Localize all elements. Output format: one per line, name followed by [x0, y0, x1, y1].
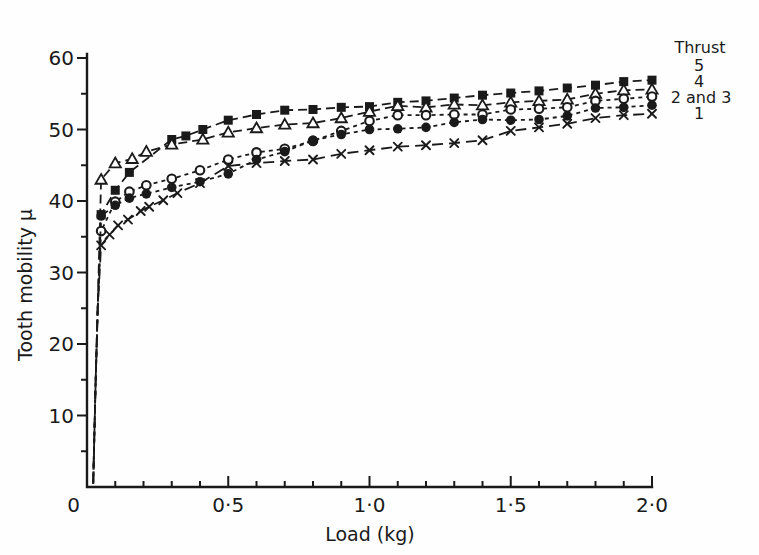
filled-circle-marker	[110, 200, 120, 210]
open-circle-marker	[142, 181, 151, 190]
cross-marker	[159, 196, 167, 204]
filled-square-marker	[111, 186, 120, 195]
y-tick-label: 20	[49, 332, 74, 356]
series-line	[93, 114, 652, 484]
x-tick-label: 1·0	[354, 493, 386, 517]
open-circle-marker	[365, 117, 374, 126]
cross-marker	[124, 216, 132, 224]
cross-marker	[137, 207, 145, 215]
data-series	[93, 76, 657, 484]
filled-circle-marker	[647, 100, 657, 110]
scanned-figure-page: Load (kg) Tooth mobility μ Thrust 5 4 2 …	[0, 0, 759, 555]
filled-square-marker	[125, 168, 134, 177]
open-triangle-marker	[251, 122, 262, 132]
series-line	[93, 80, 652, 483]
origin-tick-label: 0	[67, 493, 80, 517]
filled-circle-marker	[478, 115, 488, 125]
y-tick-label: 60	[49, 46, 74, 70]
legend: Thrust 5 4 2 and 3 1	[671, 38, 732, 123]
filled-square-marker	[563, 84, 572, 93]
series-2-and-3	[93, 92, 656, 483]
filled-circle-marker	[591, 103, 601, 113]
open-circle-marker	[167, 175, 176, 184]
filled-circle-marker	[506, 115, 516, 125]
x-tick-label: 2·0	[636, 493, 668, 517]
open-circle-marker	[648, 92, 657, 101]
legend-title: Thrust	[673, 38, 725, 57]
filled-circle-marker	[142, 189, 152, 199]
filled-square-marker	[280, 106, 289, 115]
filled-circle-marker	[125, 193, 135, 203]
filled-square-marker	[337, 103, 346, 112]
open-circle-marker	[535, 104, 544, 113]
open-triangle-marker	[141, 146, 152, 156]
cross-marker	[173, 189, 181, 197]
tooth-mobility-chart: Load (kg) Tooth mobility μ Thrust 5 4 2 …	[0, 0, 759, 555]
filled-square-marker	[252, 110, 261, 119]
x-axis-title: Load (kg)	[325, 523, 415, 545]
cross-marker	[114, 221, 122, 229]
cross-marker	[648, 110, 656, 118]
filled-circle-marker	[393, 124, 403, 134]
series-4	[93, 84, 657, 484]
y-tick-label: 30	[49, 261, 74, 285]
filled-circle-marker	[308, 135, 318, 145]
series-1	[93, 110, 656, 484]
y-axis-title: Tooth mobility μ	[14, 209, 36, 362]
y-tick-label: 40	[49, 189, 74, 213]
filled-circle-marker	[365, 125, 375, 135]
y-tick-label: 50	[49, 118, 74, 142]
open-circle-marker	[506, 105, 515, 114]
open-circle-marker	[619, 94, 628, 103]
series-2-and-3	[93, 100, 657, 483]
filled-circle-marker	[421, 123, 431, 133]
open-circle-marker	[422, 111, 431, 120]
open-circle-marker	[563, 103, 572, 112]
filled-circle-marker	[449, 118, 459, 128]
legend-entry-thrust-1: 1	[694, 104, 704, 123]
open-circle-marker	[393, 111, 402, 120]
open-triangle-marker	[127, 153, 138, 163]
filled-circle-marker	[96, 211, 106, 221]
series-line	[93, 105, 652, 483]
axes: 1020304050600·51·01·52·00	[49, 46, 668, 517]
filled-circle-marker	[280, 147, 290, 157]
open-circle-marker	[450, 110, 459, 119]
filled-circle-marker	[336, 130, 346, 140]
filled-square-marker	[309, 105, 318, 114]
y-tick-label: 10	[49, 404, 74, 428]
cross-marker	[106, 231, 114, 239]
open-circle-marker	[196, 166, 205, 175]
x-tick-label: 1·5	[495, 493, 527, 517]
filled-square-marker	[181, 131, 190, 140]
open-triangle-marker	[223, 127, 234, 137]
filled-square-marker	[224, 116, 233, 125]
x-tick-label: 0·5	[212, 493, 244, 517]
series-5	[93, 76, 656, 484]
cross-marker	[145, 203, 153, 211]
